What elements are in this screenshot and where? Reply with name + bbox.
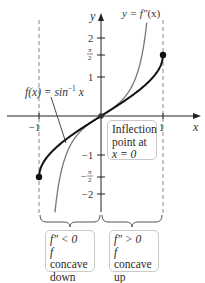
endpoint-lower [36,174,42,180]
concave-up-box: f″ > 0 f concave up [109,230,159,272]
second-derivative-label: y = f″(x) [121,7,161,20]
y-tick-label-neg-pi2-num: π [88,168,92,176]
function-label: f(x) = sin−1 x [25,84,85,99]
x-tick-label-neg1: −1 [29,122,40,133]
inflection-point [98,113,104,119]
inflection-point-box: Inflection point at x = 0 [107,120,157,160]
concave-down-line2: f concave [50,246,90,271]
inflection-box-line3: x = 0 [112,148,152,161]
concave-down-line1: f″ < 0 [50,233,90,246]
y-axis-arrow-icon [98,13,104,21]
y-tick-label-neg2: −2 [82,189,93,200]
x-tick-label-pos1: 1 [159,122,164,133]
brace-right [102,215,162,227]
y-tick-label-pi2-num: π [88,46,92,54]
x-axis-arrow-icon [193,113,201,119]
concave-up-line1: f″ > 0 [114,233,154,246]
y-tick-label-1: 1 [88,72,93,83]
concave-up-line3: up [114,271,154,283]
concave-up-line2: f concave [114,246,154,271]
inflection-box-line1: Inflection [112,123,152,136]
y-tick-label-pi2-den: 2 [88,54,92,62]
concave-down-box: f″ < 0 f concave down [45,230,95,272]
y-tick-label-neg-pi2-den: 2 [88,176,92,184]
x-axis-label: x [192,120,199,134]
y-axis-label: y [89,9,96,23]
y-tick-label-neg1: −1 [82,150,93,161]
endpoint-upper [160,52,166,58]
brace-left [40,215,100,227]
concave-down-line3: down [50,271,90,283]
inflection-box-line2: point at [112,136,152,149]
y-tick-label-neg-pi2-sign: − [81,171,87,182]
function-label-leader [51,97,66,143]
y-tick-label-2: 2 [88,33,93,44]
